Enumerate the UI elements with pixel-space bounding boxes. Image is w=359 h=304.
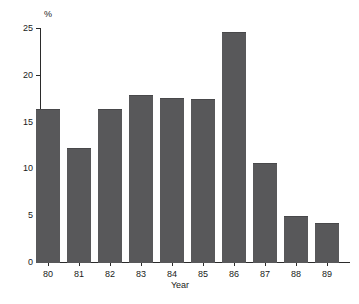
x-tick bbox=[265, 263, 266, 266]
x-axis-title: Year bbox=[158, 281, 202, 290]
x-tick-label: 89 bbox=[315, 270, 339, 279]
bar-81 bbox=[67, 148, 91, 263]
x-tick bbox=[172, 263, 173, 266]
x-tick bbox=[141, 263, 142, 266]
x-tick-label: 85 bbox=[191, 270, 215, 279]
y-tick-label: 15 bbox=[13, 118, 33, 127]
y-tick-label: 0 bbox=[13, 258, 33, 267]
bar-84 bbox=[160, 98, 184, 263]
x-tick-label: 86 bbox=[222, 270, 246, 279]
x-tick-label: 84 bbox=[160, 270, 184, 279]
x-tick bbox=[203, 263, 204, 266]
bar-88 bbox=[284, 216, 308, 263]
y-tick bbox=[36, 28, 40, 29]
x-tick-label: 80 bbox=[36, 270, 60, 279]
bar-chart-figure: % 0510152025 80818283848586878889 Year bbox=[0, 0, 359, 304]
bar-82 bbox=[98, 109, 122, 264]
x-tick-label: 87 bbox=[253, 270, 277, 279]
x-tick-label: 83 bbox=[129, 270, 153, 279]
bar-85 bbox=[191, 99, 215, 263]
y-axis-unit-label: % bbox=[44, 10, 52, 19]
x-tick bbox=[79, 263, 80, 266]
y-tick-label: 10 bbox=[13, 164, 33, 173]
bar-87 bbox=[253, 163, 277, 263]
x-tick-label: 81 bbox=[67, 270, 91, 279]
bar-89 bbox=[315, 223, 339, 263]
x-tick bbox=[234, 263, 235, 266]
y-tick-label: 25 bbox=[13, 24, 33, 33]
x-tick bbox=[48, 263, 49, 266]
bar-86 bbox=[222, 32, 246, 263]
y-tick bbox=[36, 75, 40, 76]
y-tick-label: 20 bbox=[13, 71, 33, 80]
plot-area: % 0510152025 80818283848586878889 Year bbox=[0, 0, 359, 304]
x-tick-label: 82 bbox=[98, 270, 122, 279]
x-tick bbox=[110, 263, 111, 266]
y-tick-label: 5 bbox=[13, 211, 33, 220]
x-tick bbox=[327, 263, 328, 266]
bar-83 bbox=[129, 95, 153, 263]
x-tick bbox=[296, 263, 297, 266]
bar-80 bbox=[36, 109, 60, 263]
x-tick-label: 88 bbox=[284, 270, 308, 279]
